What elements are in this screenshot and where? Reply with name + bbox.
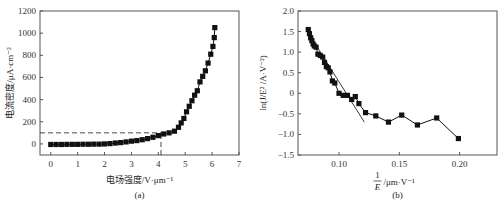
y-tick-label: 0 (290, 88, 295, 98)
data-marker-square (313, 45, 318, 50)
y-tick-label: 800 (23, 50, 37, 60)
data-marker-square (200, 74, 205, 79)
x-axis-label-numerator: 1 (375, 170, 380, 180)
data-marker-square (113, 140, 118, 145)
y-tick-label: 1.5 (283, 27, 295, 37)
data-marker-square (327, 69, 332, 74)
x-tick-label: 7 (237, 159, 242, 169)
data-marker-square (208, 52, 213, 57)
data-marker-square (134, 138, 139, 143)
x-axis-label-unit: /μm·V⁻¹ (384, 177, 416, 187)
data-marker-square (332, 80, 337, 85)
x-tick-label: 5 (183, 159, 188, 169)
data-marker-square (91, 142, 96, 147)
y-tick-label: 1200 (18, 6, 37, 16)
y-tick-label: 1000 (18, 28, 37, 38)
y-axis-label: ln(J/E² /A·V⁻²) (258, 55, 268, 110)
data-marker-square (189, 98, 194, 103)
data-marker-square (97, 142, 102, 147)
linear-fit-line (311, 38, 364, 122)
x-tick-label: 0.15 (391, 159, 407, 169)
data-marker-square (184, 109, 189, 114)
data-marker-square (399, 112, 404, 117)
data-marker-square (197, 79, 202, 84)
data-marker-square (107, 141, 112, 146)
data-marker-square (64, 142, 69, 147)
data-marker-square (320, 54, 325, 59)
data-marker-square (54, 142, 59, 147)
data-marker-square (181, 116, 186, 121)
x-axis-label-denominator: E (374, 182, 381, 192)
y-tick-label: −0.5 (278, 109, 295, 119)
figure-caption: (a) (135, 190, 145, 200)
data-marker-square (415, 122, 420, 127)
data-marker-square (161, 131, 166, 136)
y-tick-label: 600 (23, 72, 37, 82)
data-marker-square (456, 136, 461, 141)
series-line (308, 30, 458, 139)
data-marker-square (166, 130, 171, 135)
data-marker-square (210, 44, 215, 49)
x-tick-label: 0.20 (452, 159, 468, 169)
x-tick-label: 6 (210, 159, 215, 169)
plot-frame (298, 11, 497, 155)
data-marker-square (48, 142, 53, 147)
data-marker-square (86, 142, 91, 147)
data-marker-square (195, 88, 200, 93)
data-marker-square (179, 120, 184, 125)
x-axis-label: 电场强度/V·μm⁻¹ (106, 174, 174, 185)
y-tick-label: 1.0 (283, 47, 295, 57)
x-tick-label: 4 (156, 159, 161, 169)
data-marker-square (187, 104, 192, 109)
data-marker-square (353, 94, 358, 99)
data-marker-square (434, 115, 439, 120)
y-axis-label: 电流密度/μA·cm⁻² (4, 47, 15, 119)
y-tick-label: −1.0 (278, 129, 295, 139)
x-tick-label: 1 (75, 159, 80, 169)
data-marker-square (356, 101, 361, 106)
data-marker-square (145, 136, 150, 141)
data-marker-square (70, 142, 75, 147)
y-tick-label: 2.0 (283, 6, 295, 16)
chart-b-fn-plot: −1.5−1.0−0.500.51.01.52.00.100.150.201E/… (258, 6, 497, 200)
data-marker-square (80, 142, 85, 147)
data-marker-square (205, 60, 210, 65)
chart-a-current-density: 02004006008001000120001234567电场强度/V·μm⁻¹… (4, 6, 242, 200)
y-tick-label: 200 (23, 117, 37, 127)
y-tick-label: 400 (23, 95, 37, 105)
data-marker-square (363, 110, 368, 115)
data-marker-square (203, 68, 208, 73)
data-marker-square (140, 137, 145, 142)
data-marker-square (176, 125, 181, 130)
data-marker-square (59, 142, 64, 147)
data-marker-square (75, 142, 80, 147)
data-marker-square (386, 119, 391, 124)
data-marker-square (192, 93, 197, 98)
data-marker-square (118, 140, 123, 145)
data-marker-square (212, 25, 217, 30)
data-marker-square (212, 35, 217, 40)
data-marker-square (373, 113, 378, 118)
data-marker-square (102, 141, 107, 146)
y-tick-label: −1.5 (278, 150, 295, 160)
figure-caption: (b) (392, 190, 403, 200)
x-tick-label: 3 (129, 159, 134, 169)
data-marker-square (129, 139, 134, 144)
plot-frame (40, 11, 239, 155)
data-marker-square (156, 133, 161, 138)
data-marker-square (123, 139, 128, 144)
x-tick-label: 2 (102, 159, 107, 169)
y-tick-label: 0.5 (283, 68, 295, 78)
x-tick-label: 0 (49, 159, 54, 169)
data-marker-square (150, 135, 155, 140)
x-tick-label: 0.10 (331, 159, 347, 169)
y-tick-label: 0 (32, 139, 37, 149)
figure: 02004006008001000120001234567电场强度/V·μm⁻¹… (0, 0, 501, 209)
series-line (51, 28, 215, 145)
